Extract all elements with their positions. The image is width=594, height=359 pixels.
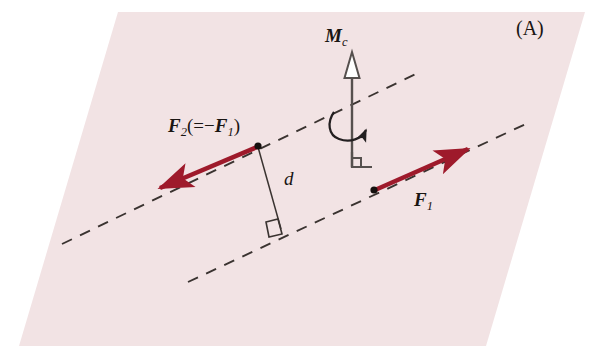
- force-label-f1-subscript: 1: [427, 199, 433, 213]
- moment-label-mc-subscript: c: [342, 35, 348, 49]
- force-couple-diagram-svg: [0, 0, 594, 359]
- force-label-f2-minus: −: [204, 115, 215, 136]
- figure-root: F2(=−F1) F1 Mc d (A): [0, 0, 594, 359]
- force-label-f2-symbol: F: [168, 115, 181, 136]
- force-label-f2: F2(=−F1): [168, 116, 240, 138]
- force-label-f2-paren-close: ): [234, 115, 240, 136]
- force-label-f1: F1: [414, 190, 433, 212]
- panel-label: (A): [516, 18, 544, 38]
- application-point-f1: [370, 186, 377, 193]
- moment-label-mc: Mc: [325, 26, 347, 48]
- force-label-f2-neg-symbol: F: [215, 115, 228, 136]
- distance-label-d: d: [284, 169, 294, 188]
- inclined-plane-surface: [19, 12, 585, 346]
- force-label-f1-symbol: F: [414, 189, 427, 210]
- force-label-f2-paren-open: (=: [187, 115, 204, 136]
- application-point-f2: [254, 142, 261, 149]
- moment-label-mc-symbol: M: [325, 25, 342, 46]
